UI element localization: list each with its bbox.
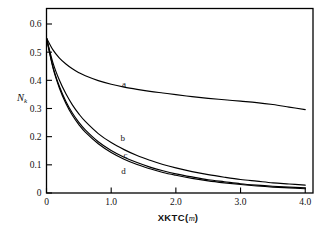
y-tick-label-4: 0.4 [30,76,42,86]
x-tick-label-2: 2.0 [170,197,182,207]
y-tick-label-6: 0.6 [30,19,42,29]
y-tick-label-2: 0.2 [30,132,42,142]
curve-label-b: b [121,133,126,143]
y-tick-label-0: 0 [37,188,42,198]
curve-label-d: d [121,166,126,176]
x-axis-title: XKTC(m) [158,212,199,223]
x-tick-label-0: 0 [44,197,49,207]
line-chart: 01.02.03.04.0 00.10.20.30.40.50.6 abcd X… [0,0,324,229]
chart-figure: 01.02.03.04.0 00.10.20.30.40.50.6 abcd X… [0,0,324,229]
chart-background [0,0,324,229]
curve-label-c: c [123,150,127,160]
y-tick-label-3: 0.3 [30,104,42,114]
x-tick-label-4: 4.0 [299,197,311,207]
x-tick-label-1: 1.0 [105,197,117,207]
curve-label-a: a [122,79,126,89]
x-tick-label-3: 3.0 [235,197,247,207]
y-tick-label-5: 0.5 [30,48,42,58]
y-tick-label-1: 0.1 [30,160,42,170]
